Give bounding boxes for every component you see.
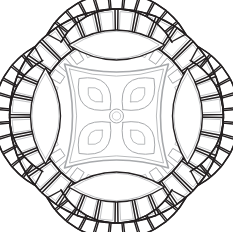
mandala-artwork	[0, 0, 233, 232]
mandala-canvas	[0, 0, 233, 232]
flower-hub	[110, 109, 124, 123]
